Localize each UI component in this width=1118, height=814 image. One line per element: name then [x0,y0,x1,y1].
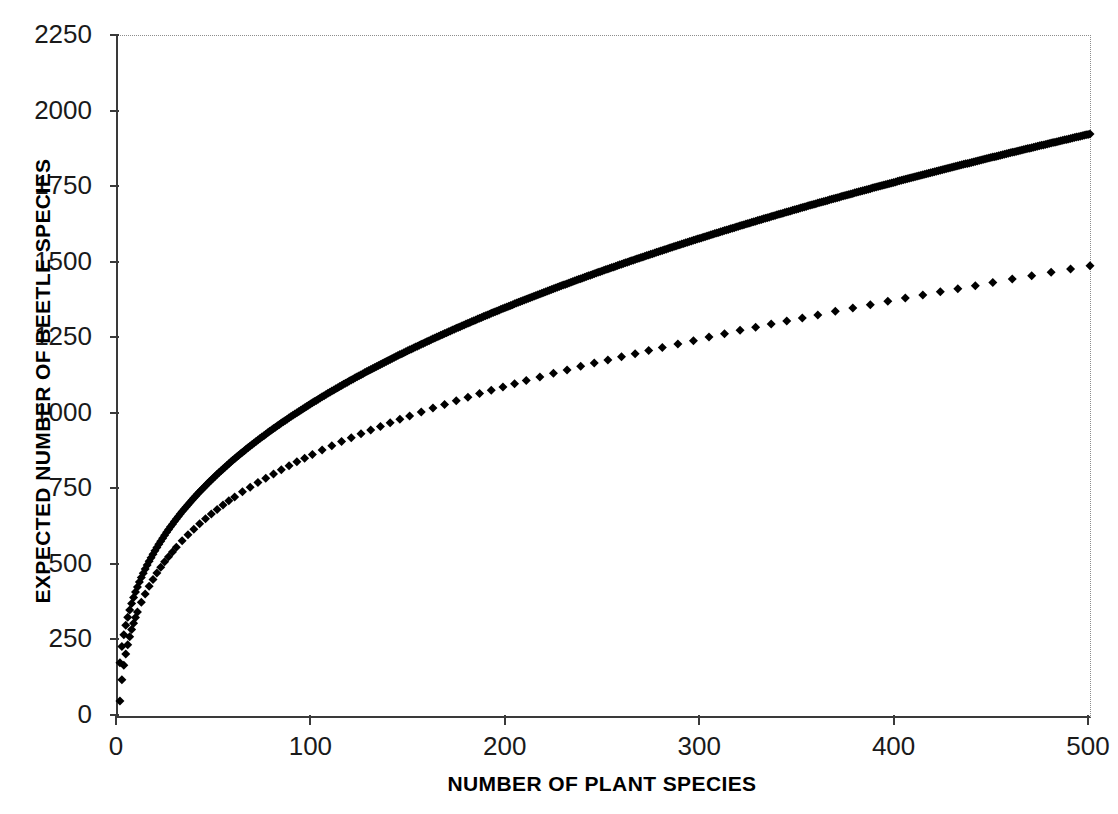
data-point [195,519,204,528]
y-tick-mark [110,563,119,565]
y-axis-tick: 1500 [0,262,110,263]
data-point [337,437,346,446]
data-point [137,598,146,607]
x-tick-mark [115,715,117,725]
data-point [178,536,187,545]
data-point [1066,265,1075,274]
x-tick-mark [309,715,311,725]
x-tick-label: 200 [445,731,565,761]
y-axis-tick: 750 [0,488,110,489]
data-point [936,287,945,296]
data-point [277,465,286,474]
x-tick-mark [698,715,700,725]
data-point [720,329,729,338]
y-tick-mark [110,34,119,36]
data-point [183,530,192,539]
y-axis-tick: 1250 [0,337,110,338]
y-tick-mark [110,185,119,187]
y-tick-label: 500 [49,548,92,578]
data-point [115,696,124,705]
data-point [644,346,653,355]
y-axis-tick: 500 [0,564,110,565]
x-axis-tick: 400 [894,715,895,716]
data-point [1027,271,1036,280]
x-tick-mark [504,715,506,725]
data-point [798,313,807,322]
data-point [971,281,980,290]
data-point [253,478,262,487]
data-point [689,336,698,345]
y-tick-mark [110,261,119,263]
data-series-layer [118,36,1090,716]
data-point [576,362,585,371]
data-point [751,323,760,332]
data-point [386,418,395,427]
y-axis-tick: 250 [0,639,110,640]
data-point [736,326,745,335]
x-tick-mark [1087,715,1089,725]
data-point [261,474,270,483]
data-point [590,359,599,368]
data-point [813,310,822,319]
data-point [327,441,336,450]
data-point [953,284,962,293]
data-point [510,379,519,388]
data-point [123,613,132,622]
data-point [658,343,667,352]
y-tick-label: 0 [78,699,92,729]
data-point [475,389,484,398]
y-tick-mark [110,110,119,112]
data-point [535,372,544,381]
x-axis-tick: 200 [505,715,506,716]
data-point [117,675,126,684]
data-point [617,352,626,361]
data-point [189,525,198,534]
data-point [145,582,154,591]
data-point [357,429,366,438]
plot-area [116,35,1091,718]
data-point [463,393,472,402]
data-point [347,433,356,442]
y-axis-tick: 0 [0,715,110,716]
data-point [269,469,278,478]
y-tick-mark [110,638,119,640]
data-point [767,320,776,329]
y-axis-tick: 2000 [0,111,110,112]
data-point [631,349,640,358]
data-point [603,355,612,364]
data-point [704,333,713,342]
y-axis-tick: 2250 [0,35,110,36]
data-point [246,483,255,492]
x-axis-title: NUMBER OF PLANT SPECIES [116,772,1088,796]
y-tick-mark [110,336,119,338]
data-point [918,291,927,300]
data-point [428,404,437,413]
data-point [452,396,461,405]
x-tick-label: 0 [56,731,176,761]
data-point [563,365,572,374]
data-point [395,415,404,424]
y-tick-label: 750 [49,472,92,502]
y-axis-tick: 1750 [0,186,110,187]
x-tick-label: 500 [1028,731,1118,761]
y-axis-title: EXPECTED NUMBER OF BEETLE SPECIES [31,91,55,671]
data-point [883,297,892,306]
data-point [308,450,317,459]
data-point [1086,261,1095,270]
data-point [848,304,857,313]
data-point [487,386,496,395]
x-tick-label: 300 [639,731,759,761]
data-point-markers [115,129,1094,705]
x-tick-label: 400 [834,731,954,761]
data-point [673,339,682,348]
data-point [366,426,375,435]
data-point [866,300,875,309]
data-point [988,278,997,287]
data-point [1047,268,1056,277]
x-tick-label: 100 [250,731,370,761]
x-axis-tick: 300 [699,715,700,716]
y-axis-tick: 1000 [0,413,110,414]
data-point [300,454,309,463]
data-point [141,589,150,598]
data-point [831,307,840,316]
